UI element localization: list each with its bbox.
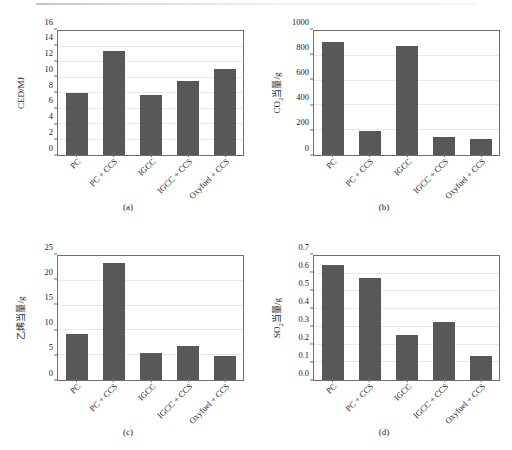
y-axis-tick-label: 0.1 bbox=[298, 350, 309, 359]
bar[interactable] bbox=[322, 42, 344, 155]
y-axis-tick-mark bbox=[54, 123, 57, 124]
bar[interactable] bbox=[103, 263, 125, 380]
x-axis-tick-label: PC + CCS bbox=[88, 157, 119, 188]
x-axis-tick-mark bbox=[332, 153, 333, 157]
y-axis-tick-label: 0.4 bbox=[298, 296, 309, 305]
y-axis-tick-mark bbox=[310, 308, 313, 309]
bar[interactable] bbox=[470, 356, 492, 380]
bar[interactable] bbox=[214, 69, 236, 155]
y-axis-tick-label: 20 bbox=[45, 267, 54, 276]
y-axis-tick-mark bbox=[310, 290, 313, 291]
y-axis-title-d-main: SO bbox=[272, 326, 282, 338]
bar[interactable] bbox=[214, 356, 236, 380]
x-axis-tick-label: IGCC + CCS bbox=[156, 382, 194, 420]
bar[interactable] bbox=[177, 81, 199, 155]
y-axis-tick-label: 15 bbox=[45, 293, 54, 302]
x-axis-tick-label: PC + CCS bbox=[344, 382, 375, 413]
y-axis-title-d-tail: 当量/g bbox=[272, 298, 282, 323]
y-axis-tick-mark bbox=[54, 107, 57, 108]
plot-area-d bbox=[313, 255, 500, 381]
y-axis-tick-label: 0.5 bbox=[298, 278, 309, 287]
x-axis-tick-mark bbox=[407, 153, 408, 157]
chart-panel-d: SO2当量/g 0.00.10.20.30.40.50.60.7 PCPC + … bbox=[256, 225, 512, 450]
x-axis-tick-label: PC bbox=[68, 157, 81, 170]
x-axis-tick-label: IGCC bbox=[136, 382, 156, 402]
x-axis-tick-mark bbox=[369, 153, 370, 157]
bar[interactable] bbox=[359, 131, 381, 155]
x-axis-tick-mark bbox=[113, 378, 114, 382]
plot-area-wrapper-b: 02004006008001000 bbox=[313, 30, 500, 156]
y-axis-tick-mark bbox=[54, 155, 57, 156]
y-axis-tick-mark bbox=[54, 380, 57, 381]
bar[interactable] bbox=[140, 95, 162, 155]
bar-series bbox=[314, 256, 499, 380]
x-axis-tick-mark bbox=[481, 153, 482, 157]
y-axis-tick-mark bbox=[310, 362, 313, 363]
bar[interactable] bbox=[396, 335, 418, 380]
y-axis-tick-label: 0.0 bbox=[298, 368, 309, 377]
bar[interactable] bbox=[359, 278, 381, 380]
y-axis-tick-label: 4 bbox=[49, 112, 53, 121]
bar-series bbox=[58, 256, 243, 380]
x-axis-tick-mark bbox=[444, 153, 445, 157]
y-axis-tick-label: 14 bbox=[45, 33, 54, 42]
y-axis-tick-mark bbox=[54, 354, 57, 355]
x-axis-tick-label: IGCC bbox=[392, 382, 412, 402]
x-axis-tick-mark bbox=[407, 378, 408, 382]
x-axis-tick-label: PC bbox=[324, 382, 337, 395]
bar[interactable] bbox=[433, 322, 455, 380]
y-axis-tick-mark bbox=[310, 380, 313, 381]
x-axis-tick-mark bbox=[225, 153, 226, 157]
plot-area-wrapper-a: 0246810121416 bbox=[57, 30, 244, 156]
y-axis-tick-mark bbox=[54, 76, 57, 77]
y-axis-tick-mark bbox=[54, 304, 57, 305]
y-axis-tick-label: 2 bbox=[49, 128, 53, 137]
y-axis-tick-label: 0.7 bbox=[298, 242, 309, 251]
y-axis-tick-mark bbox=[310, 272, 313, 273]
bar[interactable] bbox=[322, 265, 344, 380]
bar[interactable] bbox=[396, 46, 418, 155]
bar-series bbox=[314, 31, 499, 155]
figure-panel-grid: CED/MJ 0246810121416 PCPC + CCSIGCCIGCC … bbox=[0, 0, 512, 450]
bar[interactable] bbox=[177, 346, 199, 380]
y-axis-tick-mark bbox=[54, 279, 57, 280]
y-axis-tick-mark bbox=[310, 29, 313, 30]
y-axis-tick-label: 0 bbox=[305, 143, 309, 152]
y-axis-tick-mark bbox=[310, 54, 313, 55]
y-axis-tick-mark bbox=[310, 326, 313, 327]
x-axis-tick-mark bbox=[481, 378, 482, 382]
panel-caption-d: (d) bbox=[256, 427, 512, 437]
y-axis-title-a: CED/MJ bbox=[14, 30, 28, 156]
x-axis-tick-mark bbox=[188, 378, 189, 382]
y-axis-tick-label: 25 bbox=[45, 242, 54, 251]
y-axis-title-d: SO2当量/g bbox=[270, 255, 284, 381]
bar[interactable] bbox=[140, 353, 162, 380]
x-axis-tick-mark bbox=[113, 153, 114, 157]
y-axis-tick-label: 5 bbox=[49, 343, 53, 352]
y-axis-tick-mark bbox=[310, 344, 313, 345]
panel-caption-c: (c) bbox=[0, 427, 256, 437]
bar[interactable] bbox=[66, 334, 88, 380]
chart-panel-a: CED/MJ 0246810121416 PCPC + CCSIGCCIGCC … bbox=[0, 0, 256, 225]
y-axis-tick-mark bbox=[310, 104, 313, 105]
bar[interactable] bbox=[66, 93, 88, 155]
y-axis-tick-label: 12 bbox=[45, 49, 54, 58]
y-axis-title-c: 乙烯当量/g bbox=[14, 255, 28, 381]
y-axis-tick-label: 600 bbox=[296, 68, 309, 77]
y-axis-tick-label: 16 bbox=[45, 17, 54, 26]
y-axis-tick-mark bbox=[310, 79, 313, 80]
y-axis-tick-label: 10 bbox=[45, 318, 54, 327]
y-axis-tick-label: 8 bbox=[49, 80, 53, 89]
y-axis-title-c-main: 乙烯当量/g bbox=[16, 297, 26, 340]
y-axis-tick-label: 10 bbox=[45, 65, 54, 74]
x-axis-tick-label: PC + CCS bbox=[344, 157, 375, 188]
y-axis-title-b-main: CO bbox=[272, 101, 282, 114]
y-axis-tick-mark bbox=[54, 139, 57, 140]
panel-caption-b: (b) bbox=[256, 202, 512, 212]
plot-area-b bbox=[313, 30, 500, 156]
bar[interactable] bbox=[103, 51, 125, 155]
x-axis-tick-mark bbox=[332, 378, 333, 382]
chart-panel-c: 乙烯当量/g 0510152025 PCPC + CCSIGCCIGCC + C… bbox=[0, 225, 256, 450]
y-axis-tick-mark bbox=[310, 155, 313, 156]
y-axis-title-b-sub: 2 bbox=[277, 98, 284, 101]
